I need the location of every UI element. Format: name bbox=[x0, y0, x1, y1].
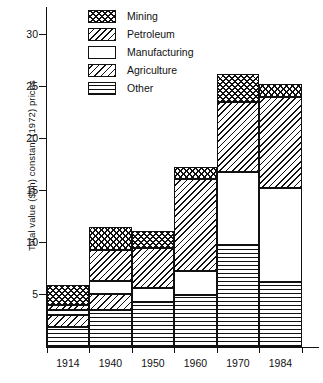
y-tick-mark bbox=[39, 242, 47, 243]
bar-segment-manufacturing[interactable] bbox=[174, 271, 217, 295]
y-tick-label: 20 bbox=[0, 132, 38, 144]
bar-segment-other[interactable] bbox=[259, 282, 302, 346]
x-tick-mark bbox=[47, 347, 48, 353]
bar-segment-manufacturing[interactable] bbox=[89, 281, 132, 293]
y-tick-label: 5 bbox=[0, 288, 38, 300]
bar-stack[interactable] bbox=[174, 167, 217, 347]
x-tick-mark bbox=[174, 347, 175, 353]
bar-segment-manufacturing[interactable] bbox=[259, 188, 302, 283]
legend-swatch-agriculture bbox=[88, 64, 116, 77]
x-tick-mark bbox=[89, 347, 90, 353]
bar-stack[interactable] bbox=[259, 84, 302, 347]
legend-label: Mining bbox=[127, 10, 158, 22]
bar-segment-other[interactable] bbox=[89, 310, 132, 346]
x-tick-label: 1914 bbox=[45, 357, 91, 369]
bar-segment-mining[interactable] bbox=[132, 231, 175, 248]
bar-segment-petroleum[interactable] bbox=[132, 248, 175, 289]
x-tick-mark bbox=[217, 347, 218, 353]
legend-swatch-manufacturing bbox=[88, 46, 116, 59]
x-tick-label: 1960 bbox=[172, 357, 218, 369]
legend-swatch-mining bbox=[88, 10, 116, 23]
bar-segment-manufacturing[interactable] bbox=[217, 172, 260, 245]
x-tick-mark bbox=[302, 347, 303, 353]
bar-segment-agriculture[interactable] bbox=[89, 294, 132, 311]
bar-stack[interactable] bbox=[89, 227, 132, 347]
legend-item-manufacturing[interactable]: Manufacturing bbox=[88, 44, 194, 60]
y-tick-label: 30 bbox=[0, 28, 38, 40]
bar-segment-other[interactable] bbox=[47, 327, 90, 347]
bar-stack[interactable] bbox=[217, 74, 260, 346]
y-tick-label: 10 bbox=[0, 236, 38, 248]
legend-label: Petroleum bbox=[127, 28, 175, 40]
y-tick-mark bbox=[39, 138, 47, 139]
bar-segment-petroleum[interactable] bbox=[259, 97, 302, 187]
legend-label: Agriculture bbox=[127, 64, 177, 76]
bar-segment-manufacturing[interactable] bbox=[132, 288, 175, 302]
y-tick-mark bbox=[39, 190, 47, 191]
y-tick-mark bbox=[39, 86, 47, 87]
x-tick-label: 1950 bbox=[130, 357, 176, 369]
bar-segment-petroleum[interactable] bbox=[217, 102, 260, 172]
legend-item-other[interactable]: Other bbox=[88, 80, 194, 96]
bar-segment-other[interactable] bbox=[132, 302, 175, 347]
bar-segment-mining[interactable] bbox=[217, 74, 260, 102]
legend-swatch-other bbox=[88, 82, 116, 95]
bar-segment-mining[interactable] bbox=[89, 227, 132, 250]
y-tick-label: 25 bbox=[0, 80, 38, 92]
bar-stack[interactable] bbox=[47, 285, 90, 346]
x-axis-line bbox=[46, 347, 319, 348]
y-tick-mark bbox=[39, 34, 47, 35]
y-tick-label: 15 bbox=[0, 184, 38, 196]
x-tick-label: 1970 bbox=[215, 357, 261, 369]
bar-segment-petroleum[interactable] bbox=[174, 179, 217, 271]
bar-segment-agriculture[interactable] bbox=[47, 315, 90, 326]
bar-segment-petroleum[interactable] bbox=[89, 250, 132, 281]
legend-item-agriculture[interactable]: Agriculture bbox=[88, 62, 194, 78]
x-tick-label: 1940 bbox=[87, 357, 133, 369]
bar-segment-mining[interactable] bbox=[174, 167, 217, 179]
bar-stack[interactable] bbox=[132, 231, 175, 346]
x-tick-mark bbox=[259, 347, 260, 353]
chart-legend: MiningPetroleumManufacturingAgricultureO… bbox=[88, 8, 194, 98]
bar-segment-mining[interactable] bbox=[259, 84, 302, 98]
legend-label: Manufacturing bbox=[127, 46, 194, 58]
bar-segment-other[interactable] bbox=[217, 245, 260, 347]
bar-chart: Total value ($bn) constant (1972) prices… bbox=[0, 0, 323, 383]
x-tick-mark bbox=[132, 347, 133, 353]
legend-swatch-petroleum bbox=[88, 28, 116, 41]
legend-item-mining[interactable]: Mining bbox=[88, 8, 194, 24]
x-tick-label: 1984 bbox=[257, 357, 303, 369]
legend-item-petroleum[interactable]: Petroleum bbox=[88, 26, 194, 42]
bar-segment-other[interactable] bbox=[174, 295, 217, 347]
bar-segment-mining[interactable] bbox=[47, 285, 90, 305]
legend-label: Other bbox=[127, 82, 153, 94]
